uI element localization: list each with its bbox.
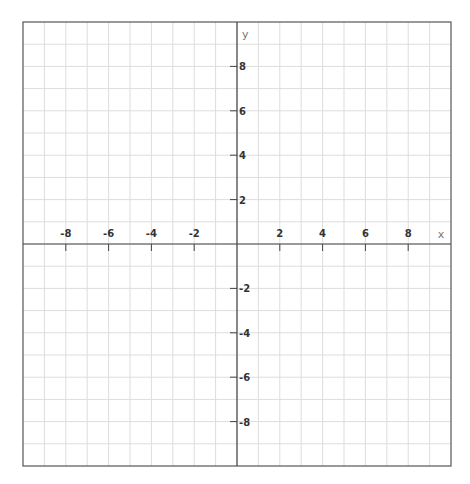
y-tick-label: -6 (239, 372, 250, 383)
y-axis-label: y (242, 28, 249, 41)
x-tick-label: -8 (60, 228, 71, 239)
y-tick-label: 8 (239, 61, 246, 72)
x-tick-label: 8 (405, 228, 412, 239)
y-tick-label: -8 (239, 417, 250, 428)
y-tick-label: 2 (239, 195, 246, 206)
y-tick-label: 6 (239, 106, 246, 117)
x-tick-label: 2 (276, 228, 283, 239)
y-tick-label: -2 (239, 283, 250, 294)
y-tick-label: -4 (239, 328, 250, 339)
coordinate-plane: -8-6-4-224688642-2-4-6-8 x y (0, 0, 470, 484)
x-tick-label: -4 (146, 228, 157, 239)
x-tick-label: 4 (319, 228, 326, 239)
x-axis-label: x (438, 228, 445, 241)
y-tick-label: 4 (239, 150, 246, 161)
x-tick-label: 6 (362, 228, 369, 239)
x-tick-label: -6 (103, 228, 114, 239)
x-tick-label: -2 (189, 228, 200, 239)
